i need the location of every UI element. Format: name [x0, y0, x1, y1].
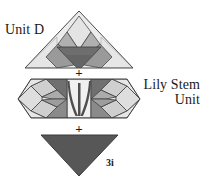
lily-block-assembly-diagram: Unit D Lily StemUnit 3i + +	[0, 0, 204, 183]
bottom-dark-triangle	[41, 135, 118, 176]
label-piece-3i: 3i	[106, 158, 114, 169]
label-lily-stem-unit: Lily StemUnit	[143, 77, 200, 107]
plus-sign-top: +	[72, 65, 86, 81]
bottom-triangle-group	[41, 135, 118, 176]
lily-stem-unit-group	[18, 79, 140, 118]
stem-center-straight	[78, 83, 81, 116]
label-lily-stem-unit-line1: Lily Stem	[143, 77, 200, 92]
unit-d-group	[25, 11, 133, 70]
label-lily-stem-unit-line2: Unit	[143, 92, 200, 107]
plus-sign-bottom: +	[72, 121, 86, 137]
label-unit-d: Unit D	[5, 22, 44, 37]
